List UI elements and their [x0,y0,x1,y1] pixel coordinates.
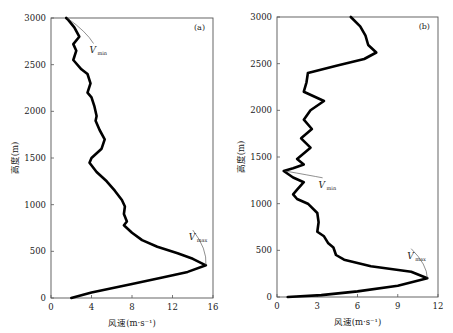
y-tick-label: 2500 [24,60,46,70]
annotation-subscript-min: min [98,50,108,56]
annotation-label-max: V [407,251,415,261]
series-line [66,18,206,298]
annotation-subscript-min: min [327,185,337,191]
annotation-label-min: V [90,45,98,55]
y-axis-title: 高度(m) [236,141,246,174]
x-axis-title: 风速(m·s⁻¹) [334,317,382,327]
y-tick-label: 2500 [250,59,272,69]
y-tick-label: 2000 [250,105,272,115]
y-tick-label: 1500 [250,152,272,162]
y-tick-label: 1500 [24,153,46,163]
chart-panel-a: 0481216050010001500200025003000风速(m·s⁻¹)… [10,13,218,328]
x-tick-label: 8 [129,302,134,312]
series-line [284,17,428,297]
y-tick-label: 0 [41,293,46,303]
x-tick-label: 3 [315,301,320,311]
panel-label: (b) [419,22,430,31]
y-tick-label: 3000 [250,12,272,22]
x-tick-label: 12 [167,302,178,312]
x-tick-label: 9 [395,301,400,311]
y-tick-label: 2000 [24,106,46,116]
y-tick-label: 1000 [250,199,272,209]
y-tick-label: 500 [256,245,272,255]
x-tick-label: 0 [274,301,279,311]
x-tick-label: 0 [48,302,53,312]
y-tick-label: 500 [30,246,46,256]
x-axis-title: 风速(m·s⁻¹) [108,318,156,328]
annotation-label-min: V [319,180,327,190]
chart-panel-b: 036912050010001500200025003000风速(m·s⁻¹)高… [236,12,443,327]
y-tick-label: 3000 [24,13,46,23]
x-tick-label: 6 [355,301,360,311]
y-axis-title: 高度(m) [10,142,20,175]
panel-label: (a) [194,23,205,32]
y-tick-label: 1000 [24,200,46,210]
y-tick-label: 0 [267,292,272,302]
figure: 0481216050010001500200025003000风速(m·s⁻¹)… [0,0,453,333]
x-tick-label: 16 [208,302,219,312]
x-tick-label: 12 [433,301,444,311]
annotation-subscript-max: max [415,256,426,262]
x-tick-label: 4 [89,302,94,312]
annotation-subscript-max: max [197,237,208,243]
